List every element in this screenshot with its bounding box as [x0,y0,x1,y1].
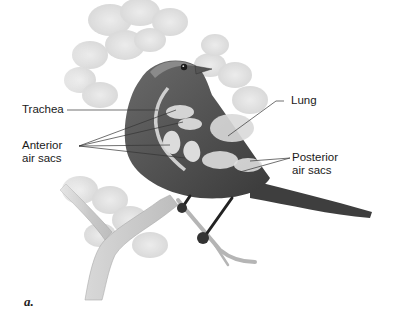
label-anterior-air-sacs-line2: air sacs [22,152,62,165]
label-lung: Lung [291,94,317,107]
figure-canvas: Trachea Anterior air sacs Lung Posterior… [0,0,399,315]
label-trachea: Trachea [22,103,64,116]
panel-label: a. [24,294,34,310]
label-posterior-air-sacs-line1: Posterior [292,151,338,164]
label-posterior-air-sacs-line2: air sacs [292,164,332,177]
label-anterior-air-sacs-line1: Anterior [22,139,62,152]
